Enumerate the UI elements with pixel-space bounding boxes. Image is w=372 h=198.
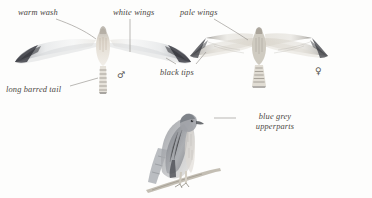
annotation-white-wings: white wings (113, 8, 154, 18)
annotation-black-tips: black tips (160, 68, 194, 78)
male-symbol: ♂ (117, 70, 125, 80)
annotation-pale-wings: pale wings (180, 8, 218, 18)
figure-perched-bird (146, 114, 221, 193)
annotation-long-barred-tail: long barred tail (6, 85, 61, 95)
annotation-blue-grey-line1: blue grey (238, 112, 312, 122)
annotation-blue-grey-line2: upperparts (238, 122, 312, 132)
figure-female-flight (190, 27, 328, 88)
leader-lines (56, 19, 248, 118)
annotation-warm-wash: warm wash (18, 8, 58, 18)
leader-warm-wash (56, 19, 96, 39)
female-symbol: ♀ (315, 66, 322, 76)
annotation-blue-grey-upperparts: blue grey upperparts (238, 112, 312, 132)
illustration-plate: warm wash white wings pale wings black t… (0, 0, 372, 198)
figure-male-flight (15, 26, 191, 94)
plate-artwork (0, 0, 372, 198)
leader-long-barred-tail (70, 78, 98, 86)
